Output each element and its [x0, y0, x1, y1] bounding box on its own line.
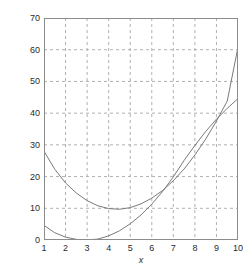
y-tick-label: 60 — [14, 46, 40, 55]
figure-container: 70 60 50 40 30 20 10 0 1 2 3 4 5 6 7 8 9… — [0, 0, 252, 266]
x-tick-label: 1 — [34, 243, 54, 253]
series-line-curve-2 — [44, 99, 238, 240]
x-tick-label: 2 — [56, 243, 76, 253]
x-axis-tick-labels: 1 2 3 4 5 6 7 8 9 10 — [44, 243, 238, 255]
x-tick-label: 9 — [206, 243, 226, 253]
horizontal-gridlines — [44, 50, 238, 209]
x-axis-label: x — [44, 255, 238, 265]
y-tick-label: 50 — [14, 77, 40, 86]
x-tick-label: 6 — [142, 243, 162, 253]
x-tick-label: 7 — [163, 243, 183, 253]
y-tick-label: 70 — [14, 14, 40, 23]
x-tick-label: 5 — [120, 243, 140, 253]
x-tick-label: 8 — [185, 243, 205, 253]
y-tick-label: 40 — [14, 109, 40, 118]
x-tick-label: 3 — [77, 243, 97, 253]
plot-area — [44, 18, 238, 240]
y-axis-tick-labels: 70 60 50 40 30 20 10 0 — [8, 18, 40, 240]
y-tick-label: 10 — [14, 204, 40, 213]
x-tick-label: 10 — [228, 243, 248, 253]
x-tick-label: 4 — [99, 243, 119, 253]
plot-box-border — [45, 19, 238, 240]
y-tick-label: 20 — [14, 173, 40, 182]
plot-svg — [44, 18, 238, 240]
vertical-gridlines — [66, 18, 217, 240]
y-tick-label: 30 — [14, 141, 40, 150]
data-series-group — [44, 47, 238, 240]
